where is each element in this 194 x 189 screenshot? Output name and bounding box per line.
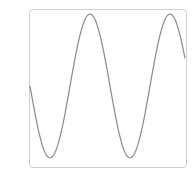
sine-wave-plot <box>0 0 194 189</box>
sine-wave-line <box>30 14 185 158</box>
